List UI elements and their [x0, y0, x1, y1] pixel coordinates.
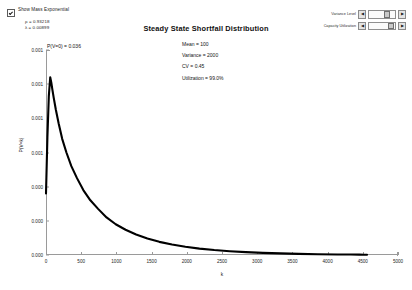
x-tick-label: 0: [45, 255, 48, 264]
variance-level-decrement-button[interactable]: ◀: [358, 10, 366, 19]
chart-title: Steady State Shortfall Distribution: [0, 24, 412, 33]
y-tick-label: 0.000: [32, 218, 47, 223]
x-tick-label: 3000: [252, 255, 262, 264]
x-tick-label: 500: [77, 255, 85, 264]
variance-level-increment-button[interactable]: ▶: [398, 10, 406, 19]
x-tick-mark: [398, 252, 399, 255]
y-tick-label: 0.001: [32, 82, 47, 87]
x-tick-label: 4500: [358, 255, 368, 264]
y-tick-label: 0.001: [32, 116, 47, 121]
param-rho: ρ = 0.93218: [25, 19, 137, 24]
y-tick-label: 0.001: [32, 48, 47, 53]
show-mass-exponential-label: Show Mass Exponential: [18, 8, 69, 13]
x-axis-title: k: [46, 272, 398, 277]
checkbox-icon[interactable]: [7, 9, 15, 17]
y-tick-label: 0.000: [32, 184, 47, 189]
probability-zero-annotation: P(V=0) = 0.036: [47, 43, 81, 49]
stat-mean: Mean = 100: [182, 41, 224, 47]
x-tick-label: 4000: [322, 255, 332, 264]
plot-area: 0.0000.0000.0000.0010.0010.0010.001 0500…: [46, 50, 398, 255]
y-axis-title: P(V=k): [19, 138, 24, 153]
shortfall-distribution-curve: [46, 50, 398, 255]
y-tick-label: 0.001: [32, 150, 47, 155]
curve-path: [46, 77, 367, 254]
x-tick-label: 1500: [146, 255, 156, 264]
x-tick-label: 2000: [182, 255, 192, 264]
x-tick-label: 1000: [111, 255, 121, 264]
x-tick-label: 3500: [287, 255, 297, 264]
variance-level-control[interactable]: Variance Level ◀ ▶: [324, 10, 406, 19]
x-tick-label: 2500: [217, 255, 227, 264]
variance-level-label: Variance Level: [331, 12, 356, 16]
x-tick-label: 5000: [393, 255, 403, 264]
variance-level-slider-track[interactable]: [368, 10, 396, 19]
show-mass-exponential-checkbox-row[interactable]: Show Mass Exponential: [7, 8, 137, 17]
variance-level-slider-thumb[interactable]: [384, 11, 390, 18]
